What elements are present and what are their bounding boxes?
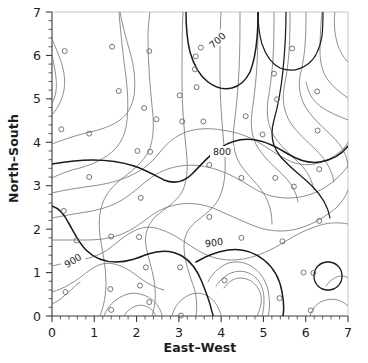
x-axis-label: East–West bbox=[164, 340, 237, 355]
x-tick-label: 5 bbox=[259, 325, 267, 340]
y-tick-label: 0 bbox=[33, 309, 41, 324]
y-tick-label: 2 bbox=[33, 222, 41, 237]
contour-figure: 700 800 900 900 0123456701234567 North–S… bbox=[0, 0, 368, 363]
y-axis-label: North–South bbox=[6, 114, 21, 203]
y-tick-label: 7 bbox=[33, 5, 41, 20]
y-tick-label: 1 bbox=[33, 265, 41, 280]
y-tick-label: 5 bbox=[33, 91, 41, 106]
y-tick-label: 6 bbox=[33, 48, 41, 63]
x-tick-label: 0 bbox=[48, 325, 56, 340]
y-axis-label-wrap: North–South bbox=[0, 0, 26, 316]
x-tick-label: 1 bbox=[90, 325, 98, 340]
x-tick-label: 2 bbox=[133, 325, 141, 340]
y-tick-label: 3 bbox=[33, 178, 41, 193]
x-tick-label: 4 bbox=[217, 325, 225, 340]
y-tick-label: 4 bbox=[33, 135, 41, 150]
x-tick-label: 3 bbox=[175, 325, 183, 340]
x-tick-label: 7 bbox=[344, 325, 352, 340]
x-tick-label: 6 bbox=[302, 325, 310, 340]
contour-plot-svg: 700 800 900 900 0123456701234567 bbox=[0, 0, 368, 363]
contour-label-800: 800 bbox=[213, 146, 231, 157]
x-axis-label-wrap: East–West bbox=[52, 340, 348, 360]
